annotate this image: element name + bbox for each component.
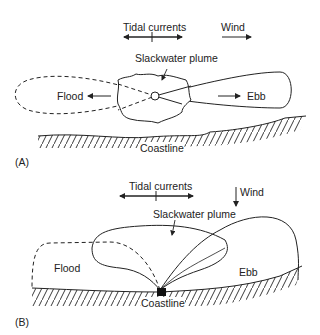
panel-tag-a: (A) xyxy=(15,156,29,168)
tidal-currents-arrow-b xyxy=(120,191,193,201)
panel-tag-b: (B) xyxy=(15,316,29,328)
diagram-canvas xyxy=(0,0,320,335)
river-mouth-circle xyxy=(151,92,159,100)
flood-lobe-b xyxy=(32,242,160,290)
slackwater-plume-label-a: Slackwater plume xyxy=(135,52,218,64)
ebb-label-b: Ebb xyxy=(239,266,258,278)
coastline-label-b: Coastline xyxy=(141,297,185,309)
slackwater-plume-label-b: Slackwater plume xyxy=(153,208,236,220)
tidal-currents-label-b: Tidal currents xyxy=(129,180,192,192)
tidal-currents-label-a: Tidal currents xyxy=(123,21,186,33)
panel-b xyxy=(32,187,302,306)
river-mouth-square xyxy=(157,288,166,296)
ebb-label-a: Ebb xyxy=(247,90,266,102)
tidal-currents-arrow-a xyxy=(124,32,182,42)
wind-label-b: Wind xyxy=(240,186,264,198)
wind-label-a: Wind xyxy=(221,21,245,33)
flood-label-a: Flood xyxy=(57,90,83,102)
coastline-label-a: Coastline xyxy=(140,142,184,154)
flood-label-b: Flood xyxy=(54,262,80,274)
